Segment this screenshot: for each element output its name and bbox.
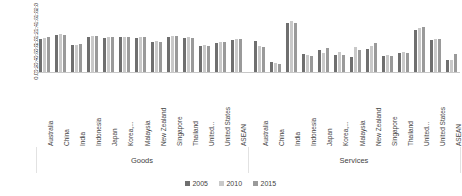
bar-2005	[366, 49, 369, 73]
bar-2005	[430, 40, 433, 73]
bar-2015	[63, 35, 66, 73]
bar-2005	[286, 23, 289, 73]
bar-2005	[414, 30, 417, 73]
bar-group	[267, 4, 283, 73]
bar-2010	[203, 45, 206, 73]
category-label: Malaysia	[144, 120, 151, 146]
category-label: China	[278, 129, 285, 146]
legend-swatch-icon	[185, 181, 190, 186]
bar-group	[52, 4, 68, 73]
category-label: Thailand	[407, 121, 414, 146]
chart-legend: 200520102015	[0, 176, 461, 190]
bar-2010	[75, 45, 78, 73]
bar-2015	[191, 38, 194, 73]
bar-group	[229, 4, 245, 73]
bar-group	[68, 4, 84, 73]
plot-area	[36, 4, 460, 73]
category-label: Thailand	[192, 121, 199, 146]
legend-item[interactable]: 2010	[219, 180, 242, 187]
bar-2005	[334, 55, 337, 73]
bar-2010	[354, 47, 357, 73]
category-label: ASEAN	[455, 124, 462, 146]
category-label: India	[294, 132, 301, 146]
bar-group	[444, 4, 460, 73]
bar-2015	[294, 23, 297, 73]
bar-2015	[111, 37, 114, 73]
category-label: New Zealand	[160, 108, 167, 146]
bar-2010	[139, 37, 142, 73]
bar-group	[132, 4, 148, 73]
legend-item[interactable]: 2015	[253, 180, 276, 187]
category-label: Korea,...	[127, 121, 134, 146]
bar-group	[428, 4, 444, 73]
y-axis: 2.01.81.61.41.21.00.80.60.40.20.0	[14, 3, 36, 73]
legend-label: 2015	[261, 180, 277, 187]
category-label: China	[63, 129, 70, 146]
bar-group	[149, 4, 165, 73]
bar-2010	[258, 46, 261, 73]
bar-group	[181, 4, 197, 73]
group-label-services: Services	[248, 156, 460, 165]
legend-label: 2005	[192, 180, 208, 187]
bar-2005	[398, 53, 401, 73]
x-axis-line	[36, 72, 460, 73]
bar-2010	[235, 39, 238, 73]
category-label: Australia	[47, 121, 54, 146]
bar-2005	[302, 54, 305, 73]
bar-2005	[135, 38, 138, 73]
bar-2010	[91, 36, 94, 73]
bar-2005	[199, 46, 202, 73]
bar-2015	[175, 36, 178, 73]
bar-2010	[322, 53, 325, 73]
bar-group	[283, 4, 299, 73]
bar-2015	[358, 50, 361, 73]
bar-2015	[438, 39, 441, 73]
category-label: Japan	[111, 128, 118, 146]
bar-2010	[434, 39, 437, 73]
bar-2015	[310, 56, 313, 73]
bar-2015	[159, 42, 162, 73]
legend-swatch-icon	[253, 181, 258, 186]
bar-2005	[446, 60, 449, 73]
bar-group	[213, 4, 229, 73]
bar-2010	[107, 37, 110, 73]
bar-2015	[406, 53, 409, 73]
category-label: Australia	[262, 121, 269, 146]
bar-2015	[262, 47, 265, 73]
bar-2005	[71, 45, 74, 73]
bar-2010	[290, 21, 293, 73]
bar-2015	[47, 37, 50, 73]
bar-2010	[187, 37, 190, 73]
bar-2005	[183, 38, 186, 73]
category-label: United States	[439, 107, 446, 146]
category-label: Singapore	[176, 116, 183, 146]
bar-group	[347, 4, 363, 73]
bar-2015	[79, 44, 82, 73]
bar-2005	[350, 57, 353, 73]
bar-2005	[103, 38, 106, 73]
category-label: Korea,...	[342, 121, 349, 146]
legend-swatch-icon	[219, 181, 224, 186]
bar-2015	[326, 48, 329, 73]
category-axis-labels: AustraliaChinaIndiaIndonesiaJapanKorea,.…	[36, 74, 460, 148]
bar-2015	[127, 37, 130, 73]
bar-2015	[342, 55, 345, 73]
category-label: Singapore	[391, 116, 398, 146]
bar-2015	[454, 54, 457, 73]
bar-2015	[390, 56, 393, 73]
bar-2010	[402, 52, 405, 73]
category-label: ASEAN	[240, 124, 247, 146]
bar-group	[36, 4, 52, 73]
bar-2015	[374, 43, 377, 73]
bar-2010	[59, 34, 62, 73]
category-label: Malaysia	[359, 120, 366, 146]
bar-2005	[119, 37, 122, 73]
group-band: GoodsServices	[36, 147, 460, 173]
bar-group	[251, 4, 267, 73]
legend-item[interactable]: 2005	[185, 180, 208, 187]
bar-2010	[123, 37, 126, 73]
group-label-goods: Goods	[36, 156, 248, 165]
bar-group	[315, 4, 331, 73]
bar-2010	[171, 36, 174, 73]
bar-2005	[318, 50, 321, 73]
